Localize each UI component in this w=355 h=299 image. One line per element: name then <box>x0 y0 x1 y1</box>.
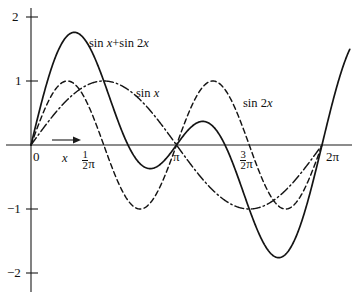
half-pi-symbol: π <box>88 156 95 171</box>
x-tick-label-half-pi: 12π <box>82 150 95 171</box>
x-tick-label-two-pi: 2π <box>326 150 339 163</box>
curve-label-sum-var2: x <box>143 36 149 50</box>
trigonometric-plot-figure: 2 1 −1 −2 0 x 12π π 32π 2π sin x+sin 2x … <box>0 0 355 299</box>
curve-label-sin-2x-var: x <box>267 96 273 110</box>
curve-label-sum: sin x+sin 2x <box>89 37 149 50</box>
x-tick-label-0: 0 <box>33 150 40 163</box>
curve-label-sin-2x: sin 2x <box>243 97 273 110</box>
x-axis-variable-label: x <box>62 152 68 165</box>
curve-label-sin-x-var: x <box>154 86 160 100</box>
y-tick-label-2: 2 <box>12 10 19 23</box>
curve-label-sum-fn: sin <box>89 36 104 50</box>
x-tick-label-three-half-pi: 32π <box>240 150 253 171</box>
y-tick-label-neg2: −2 <box>7 266 21 279</box>
curve-label-sin-x-fn: sin <box>136 86 151 100</box>
curve-label-sum-op: +sin 2 <box>112 36 143 50</box>
curve-label-sin-x: sin x <box>136 87 159 100</box>
x-direction-arrow <box>52 136 81 143</box>
three-half-pi-symbol: π <box>246 156 253 171</box>
y-tick-label-1: 1 <box>15 74 22 87</box>
curve-label-sin-2x-fn: sin 2 <box>243 96 267 110</box>
y-tick-label-neg1: −1 <box>7 202 21 215</box>
x-tick-label-pi: π <box>173 150 180 163</box>
